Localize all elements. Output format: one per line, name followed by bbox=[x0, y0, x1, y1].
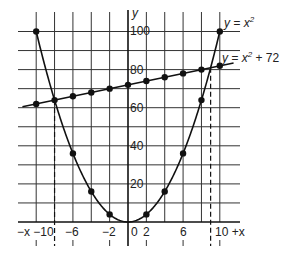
data-point bbox=[162, 74, 168, 80]
y-tick-20: 20 bbox=[130, 177, 144, 191]
data-point bbox=[106, 211, 112, 217]
x-tick-6: 6 bbox=[180, 225, 187, 239]
data-point bbox=[70, 93, 76, 99]
data-point bbox=[88, 188, 94, 194]
data-point bbox=[88, 89, 94, 95]
data-point bbox=[180, 70, 186, 76]
data-point bbox=[51, 97, 57, 103]
data-point bbox=[33, 101, 39, 107]
x-tick-pos10: 10 +x bbox=[215, 225, 245, 239]
grid bbox=[18, 12, 240, 222]
data-point bbox=[162, 188, 168, 194]
y-tick-100: 100 bbox=[130, 24, 150, 38]
y-tick-40: 40 bbox=[130, 139, 144, 153]
data-point bbox=[217, 28, 223, 34]
x-tick-neg6: −6 bbox=[65, 225, 79, 239]
line-label: y = x2 + 72 bbox=[221, 50, 279, 65]
axes bbox=[18, 10, 240, 246]
x-tick-2: 2 bbox=[143, 225, 150, 239]
data-point bbox=[180, 150, 186, 156]
data-point bbox=[143, 78, 149, 84]
x-tick-neg2: −2 bbox=[102, 225, 116, 239]
data-point bbox=[198, 97, 204, 103]
x-tick-neg10: −x −10 bbox=[17, 225, 54, 239]
data-point bbox=[125, 82, 131, 88]
data-point bbox=[33, 28, 39, 34]
data-point bbox=[106, 85, 112, 91]
data-point bbox=[143, 211, 149, 217]
y-tick-80: 80 bbox=[130, 63, 144, 77]
x-tick-0: 0 bbox=[131, 225, 138, 239]
data-point bbox=[70, 150, 76, 156]
chart-canvas: y 100 80 60 40 20 −x −10 −6 −2 0 2 6 10 … bbox=[0, 0, 294, 253]
data-point bbox=[198, 66, 204, 72]
curve-label: y = x2 bbox=[223, 15, 255, 30]
y-axis-label: y bbox=[131, 6, 139, 20]
y-tick-60: 60 bbox=[130, 101, 144, 115]
